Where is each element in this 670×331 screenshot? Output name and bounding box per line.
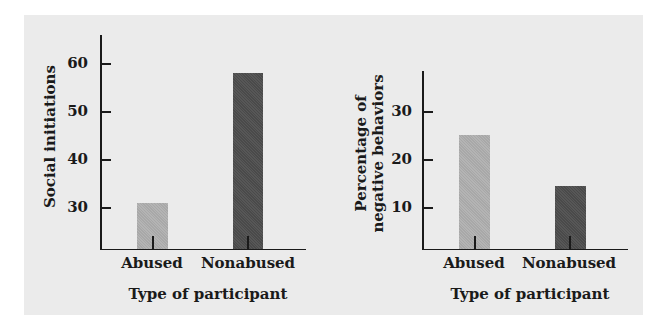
x-axis [422, 249, 628, 251]
x-axis-label: Type of participant [440, 285, 620, 303]
y-tick [423, 159, 433, 161]
x-axis-label: Type of participant [118, 285, 298, 303]
bar-abused [459, 135, 490, 249]
y-tick-label: 30 [58, 199, 88, 215]
y-tick [101, 63, 111, 65]
bar-center-mark [569, 236, 571, 249]
bar-nonabused [233, 73, 263, 249]
y-tick [101, 159, 111, 161]
y-axis-label: Social initiations [42, 62, 59, 212]
y-tick-label: 10 [382, 199, 412, 215]
bar-center-mark [474, 236, 476, 249]
x-category-label: Abused [112, 255, 192, 271]
x-category-label: Nonabused [519, 255, 619, 271]
y-tick-label: 20 [382, 151, 412, 167]
bar-nonabused [555, 186, 586, 249]
y-tick-label: 40 [58, 151, 88, 167]
y-tick-label: 60 [58, 55, 88, 71]
y-tick [423, 207, 433, 209]
y-axis-label-line1: Percentage of [353, 74, 370, 234]
y-tick [101, 207, 111, 209]
y-tick [423, 111, 433, 113]
y-tick [101, 111, 111, 113]
x-axis [100, 249, 306, 251]
bar-center-mark [247, 236, 249, 249]
y-axis [100, 35, 102, 250]
y-tick-label: 50 [58, 103, 88, 119]
x-category-label: Nonabused [198, 255, 298, 271]
y-axis [422, 71, 424, 250]
y-tick-label: 30 [382, 103, 412, 119]
bar-center-mark [152, 236, 154, 249]
x-category-label: Abused [434, 255, 514, 271]
